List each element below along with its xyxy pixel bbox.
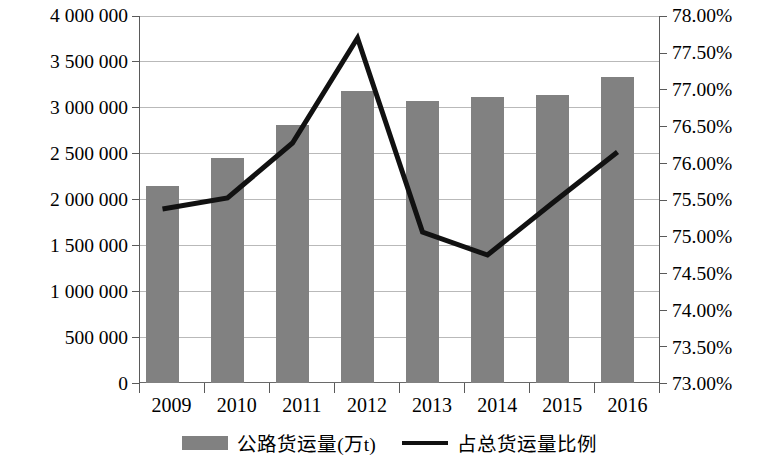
x-axis-label-2009: 2009	[139, 392, 204, 420]
right-axis-tick-label: 74.50%	[672, 264, 779, 284]
x-axis-label-2014: 2014	[465, 392, 530, 420]
right-axis-tick-label: 74.00%	[672, 301, 779, 321]
x-axis-label-2015: 2015	[530, 392, 595, 420]
left-axis-tickmark	[132, 337, 139, 338]
left-axis-tickmark	[132, 153, 139, 154]
line-swatch-icon	[402, 441, 448, 445]
left-axis-tick-label: 0	[0, 374, 128, 394]
legend-label-freight-volume: 公路货运量(万t)	[237, 428, 375, 457]
right-axis-tickmark	[660, 236, 667, 237]
right-axis-tick-label: 76.50%	[672, 117, 779, 137]
legend-label-share-ratio: 占总货运量比例	[457, 428, 597, 457]
left-axis-tick-label: 1 000 000	[0, 282, 128, 302]
x-axis-label-2010: 2010	[204, 392, 269, 420]
left-axis-tick-label: 2 000 000	[0, 190, 128, 210]
legend-item-share-ratio: 占总货运量比例	[402, 428, 597, 457]
left-axis-tickmark	[132, 291, 139, 292]
right-axis-tick-label: 77.00%	[672, 80, 779, 100]
x-axis-label-2012: 2012	[334, 392, 399, 420]
right-axis-tick-label: 75.50%	[672, 190, 779, 210]
line-series-svg	[139, 16, 660, 383]
ratio-line	[163, 38, 618, 255]
line-series	[139, 16, 660, 383]
right-axis-tickmark	[660, 200, 667, 201]
right-axis-tickmark	[660, 163, 667, 164]
right-axis-tickmark	[660, 53, 667, 54]
left-axis-tick-label: 3 000 000	[0, 98, 128, 118]
x-axis-labels: 2009 2010 2011 2012 2013 2014 2015 2016	[139, 392, 660, 420]
right-axis-tickmark	[660, 16, 667, 17]
right-axis-tick-label: 76.00%	[672, 154, 779, 174]
right-axis-tickmark	[660, 383, 667, 384]
left-axis-tickmark	[132, 199, 139, 200]
right-axis-tickmark	[660, 310, 667, 311]
bar-swatch-icon	[182, 436, 228, 450]
left-axis-tickmark	[132, 61, 139, 62]
left-axis-tickmark	[132, 16, 139, 17]
legend-item-freight-volume: 公路货运量(万t)	[182, 428, 375, 457]
right-axis-tickmark	[660, 126, 667, 127]
right-axis-tickmark	[660, 273, 667, 274]
chart-legend: 公路货运量(万t) 占总货运量比例	[0, 428, 779, 457]
x-axis-label-2016: 2016	[595, 392, 660, 420]
left-axis-tickmark	[132, 383, 139, 384]
left-axis-tickmark	[132, 245, 139, 246]
left-axis-tickmark	[132, 107, 139, 108]
x-axis-label-2013: 2013	[400, 392, 465, 420]
left-axis-tick-label: 4 000 000	[0, 6, 128, 26]
x-axis-label-2011: 2011	[269, 392, 334, 420]
right-axis-tick-label: 73.50%	[672, 338, 779, 358]
right-axis-tick-label: 78.00%	[672, 6, 779, 26]
left-axis-tick-label: 2 500 000	[0, 144, 128, 164]
right-axis-tick-label: 77.50%	[672, 43, 779, 63]
left-axis-tick-label: 1 500 000	[0, 236, 128, 256]
right-axis-tickmark	[660, 89, 667, 90]
chart-container: 4 000 000 3 500 000 3 000 000 2 500 000 …	[0, 0, 779, 464]
right-axis-tick-label: 73.00%	[672, 374, 779, 394]
right-axis-tickmark	[660, 346, 667, 347]
left-axis-tick-label: 3 500 000	[0, 52, 128, 72]
right-axis-tick-label: 75.00%	[672, 227, 779, 247]
left-axis-tick-label: 500 000	[0, 328, 128, 348]
